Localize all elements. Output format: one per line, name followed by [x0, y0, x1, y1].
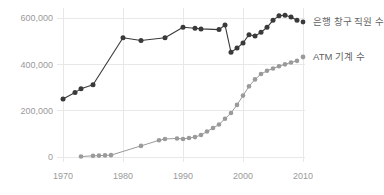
data-point	[217, 27, 222, 32]
x-axis-tick-labels: 19701980199020002010	[53, 171, 313, 181]
series-layer	[61, 13, 300, 159]
data-point	[121, 35, 126, 40]
data-point	[265, 25, 270, 30]
data-point	[241, 93, 246, 98]
legend-marker	[301, 20, 306, 25]
data-point	[241, 41, 246, 46]
data-point	[235, 103, 240, 108]
data-point	[253, 77, 258, 82]
data-point	[199, 26, 204, 31]
data-point	[193, 26, 198, 31]
data-point	[295, 59, 300, 64]
data-point	[283, 62, 288, 67]
data-point	[247, 84, 252, 89]
data-point	[235, 46, 240, 51]
legend-item[interactable]: ATM 기계 수	[301, 51, 365, 62]
legend-marker	[301, 55, 306, 60]
data-point	[109, 153, 114, 158]
data-point	[211, 126, 216, 131]
x-axis-tick-label: 1970	[53, 171, 73, 181]
y-axis-tick-label: 600,000	[20, 13, 53, 23]
data-point	[91, 82, 96, 87]
y-axis-tick-label: 0	[48, 152, 53, 162]
data-point	[91, 154, 96, 159]
data-point	[73, 90, 78, 95]
data-point	[139, 144, 144, 149]
data-point	[277, 64, 282, 69]
data-point	[259, 72, 264, 77]
y-gridlines	[57, 18, 305, 157]
data-point	[61, 97, 66, 102]
data-point	[79, 154, 84, 159]
data-point	[247, 32, 252, 37]
line-chart: 0200,000400,000600,000 19701980199020002…	[0, 0, 384, 195]
data-point	[229, 111, 234, 116]
data-point	[181, 137, 186, 142]
data-point	[139, 38, 144, 43]
data-point	[289, 15, 294, 20]
data-point	[259, 30, 264, 35]
data-point	[199, 133, 204, 138]
data-point	[181, 25, 186, 30]
data-point	[283, 13, 288, 18]
x-axis-tick-label: 1980	[113, 171, 133, 181]
data-point	[97, 153, 102, 158]
data-point	[253, 34, 258, 39]
chart-legend: 은행 창구 직원 수ATM 기계 수	[301, 16, 384, 62]
y-axis-tick-label: 200,000	[20, 106, 53, 116]
data-point	[295, 18, 300, 23]
legend-label: ATM 기계 수	[313, 51, 365, 62]
x-axis-tick-label: 2010	[293, 171, 313, 181]
data-point	[223, 22, 228, 27]
chart-container: 0200,000400,000600,000 19701980199020002…	[0, 0, 384, 195]
data-point	[205, 129, 210, 134]
data-point	[229, 50, 234, 55]
data-point	[277, 13, 282, 18]
x-axis-tick-label: 2000	[233, 171, 253, 181]
series-line	[81, 61, 297, 157]
data-point	[157, 138, 162, 143]
legend-item[interactable]: 은행 창구 직원 수	[301, 16, 384, 27]
data-point	[271, 66, 276, 71]
data-point	[163, 137, 168, 142]
y-axis-tick-label: 400,000	[20, 60, 53, 70]
data-point	[289, 60, 294, 65]
data-point	[187, 136, 192, 141]
data-series	[79, 59, 300, 159]
data-point	[193, 135, 198, 140]
data-point	[265, 69, 270, 74]
data-point	[163, 35, 168, 40]
data-point	[217, 122, 222, 127]
data-series	[61, 13, 300, 102]
y-axis-tick-labels: 0200,000400,000600,000	[20, 13, 53, 162]
series-line	[63, 15, 297, 99]
data-point	[103, 153, 108, 158]
data-point	[223, 116, 228, 121]
data-point	[271, 18, 276, 23]
data-point	[79, 86, 84, 91]
legend-label: 은행 창구 직원 수	[313, 16, 384, 27]
x-axis-tick-label: 1990	[173, 171, 193, 181]
data-point	[175, 136, 180, 141]
